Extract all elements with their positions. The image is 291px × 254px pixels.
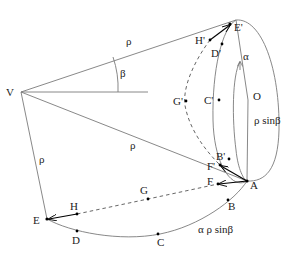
label-C: C	[157, 236, 164, 248]
label-rho-left: ρ	[39, 153, 45, 165]
point-A	[245, 179, 248, 182]
point-Bprime	[228, 158, 231, 161]
point-Dprime	[221, 43, 224, 46]
cone-development-diagram: V ρ β ρ ρ E' H' D' α C' O G' ρ sinβ B' F…	[0, 0, 291, 254]
label-arc-length: α ρ sinβ	[198, 223, 234, 235]
point-C	[157, 233, 160, 236]
point-D	[76, 230, 79, 233]
generator-V-Eprime	[21, 20, 236, 92]
label-A: A	[250, 179, 258, 191]
label-Fprime: F'	[207, 160, 215, 172]
point-Gprime	[185, 100, 188, 103]
label-Gprime: G'	[173, 95, 183, 107]
tangent-arrow-A-Fprime	[221, 166, 247, 181]
label-V: V	[6, 86, 14, 98]
label-B: B	[228, 200, 235, 212]
label-H: H	[70, 200, 78, 212]
label-Dprime: D'	[211, 47, 221, 59]
point-H	[76, 213, 79, 216]
beta-angle-arc	[113, 57, 118, 92]
label-rho-mid: ρ	[130, 139, 136, 151]
label-Bprime: B'	[216, 150, 225, 162]
radius-O-A	[247, 100, 248, 181]
point-Fprime	[219, 164, 222, 167]
point-Cprime	[218, 99, 221, 102]
point-E	[45, 217, 48, 220]
label-G: G	[140, 184, 148, 196]
label-Eprime: E'	[234, 21, 243, 33]
tangent-arrow-H-E	[49, 214, 77, 219]
label-F: F	[207, 175, 213, 187]
point-Eprime	[228, 22, 231, 25]
label-D: D	[72, 234, 80, 246]
label-Hprime: H'	[195, 34, 205, 46]
label-Cprime: C'	[204, 94, 213, 106]
label-E: E	[33, 214, 40, 226]
label-rho-top: ρ	[126, 35, 132, 47]
point-Hprime	[209, 39, 212, 42]
label-beta: β	[120, 67, 126, 79]
point-G	[147, 198, 150, 201]
label-alpha: α	[243, 50, 249, 62]
point-F	[217, 183, 220, 186]
label-O: O	[253, 90, 261, 102]
label-rho-sin-beta: ρ sinβ	[254, 114, 281, 126]
